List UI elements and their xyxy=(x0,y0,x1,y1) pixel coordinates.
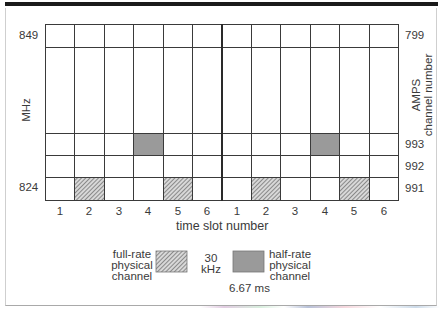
slot-label: 6 xyxy=(369,205,399,217)
full-rate-cell xyxy=(163,177,193,200)
amps-label-line1: AMPS xyxy=(410,50,422,140)
full-rate-cell xyxy=(251,177,281,200)
slot-label: 2 xyxy=(74,205,104,217)
slot-label: 1 xyxy=(222,205,252,217)
channel-tick-991: 991 xyxy=(405,182,424,194)
full-rate-cell xyxy=(340,177,370,200)
legend-half-rate-label: half-rate physical channel xyxy=(266,249,314,282)
half-rate-cell xyxy=(134,133,164,155)
channel-tick-799: 799 xyxy=(405,29,424,41)
amps-label-line2: channel number xyxy=(422,50,434,140)
slot-label: 3 xyxy=(280,205,310,217)
x-axis-label: time slot number xyxy=(176,220,268,233)
freq-tick-849: 849 xyxy=(19,29,38,41)
amps-channel-axis-label: AMPS channel number xyxy=(410,50,436,140)
slot-label: 1 xyxy=(45,205,75,217)
slot-label: 4 xyxy=(133,205,163,217)
slot-label: 5 xyxy=(339,205,369,217)
legend-bandwidth-label: 30 kHz xyxy=(196,253,226,275)
legend-half-rate-swatch xyxy=(233,251,264,272)
legend-full-rate-swatch xyxy=(156,251,187,272)
mhz-axis-label: MHz xyxy=(20,95,32,125)
slot-label: 3 xyxy=(104,205,134,217)
legend-full-rate-label: full-rate physical channel xyxy=(108,249,156,282)
channel-tick-992: 992 xyxy=(405,160,424,172)
legend-slot-duration: 6.67 ms xyxy=(229,283,270,295)
slot-label: 5 xyxy=(163,205,193,217)
slot-label: 2 xyxy=(251,205,281,217)
slot-label: 4 xyxy=(310,205,340,217)
half-rate-cell xyxy=(310,133,340,155)
full-rate-cell xyxy=(75,177,105,200)
freq-tick-824: 824 xyxy=(19,181,38,193)
slot-label: 6 xyxy=(192,205,222,217)
